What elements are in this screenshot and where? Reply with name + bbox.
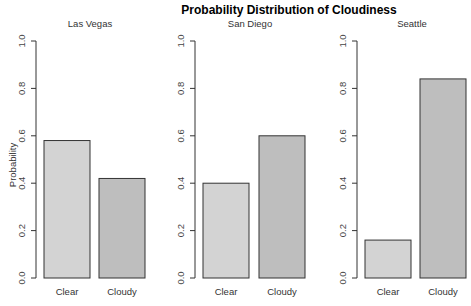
y-tick-label: 0.4 xyxy=(337,177,348,190)
x-tick-label: Clear xyxy=(215,286,238,297)
panel-title: San Diego xyxy=(228,18,272,29)
y-tick-label: 0.0 xyxy=(175,271,186,284)
y-tick-label: 0.4 xyxy=(175,177,186,190)
bar-cloudy xyxy=(259,136,305,278)
x-tick-label: Cloudy xyxy=(107,286,137,297)
y-tick-label: 0.0 xyxy=(16,271,27,284)
y-tick-label: 0.6 xyxy=(175,129,186,142)
bar-clear xyxy=(203,183,249,278)
panel-las-vegas: Las Vegas0.00.20.40.60.81.0ClearCloudy xyxy=(16,18,145,297)
panel-title: Seattle xyxy=(397,18,427,29)
chart: Probability Distribution of Cloudiness P… xyxy=(0,0,471,306)
y-tick-label: 0.8 xyxy=(337,82,348,95)
y-tick-label: 0.6 xyxy=(16,129,27,142)
y-tick-label: 0.8 xyxy=(16,82,27,95)
chart-title: Probability Distribution of Cloudiness xyxy=(181,3,397,17)
bar-cloudy xyxy=(99,178,145,278)
x-tick-label: Clear xyxy=(377,286,400,297)
y-tick-label: 0.2 xyxy=(337,224,348,237)
x-tick-label: Cloudy xyxy=(428,286,458,297)
y-tick-label: 0.4 xyxy=(16,177,27,190)
panel-title: Las Vegas xyxy=(68,18,113,29)
x-tick-label: Clear xyxy=(56,286,79,297)
y-tick-label: 0.0 xyxy=(337,271,348,284)
panel-seattle: Seattle0.00.20.40.60.81.0ClearCloudy xyxy=(337,18,466,297)
bar-cloudy xyxy=(420,79,466,278)
x-tick-label: Cloudy xyxy=(267,286,297,297)
y-tick-label: 1.0 xyxy=(175,34,186,47)
y-tick-label: 1.0 xyxy=(337,34,348,47)
bar-clear xyxy=(365,240,411,278)
y-tick-label: 0.2 xyxy=(16,224,27,237)
y-tick-label: 0.8 xyxy=(175,82,186,95)
bar-clear xyxy=(44,141,90,278)
y-tick-label: 0.2 xyxy=(175,224,186,237)
y-tick-label: 1.0 xyxy=(16,34,27,47)
panels: Las Vegas0.00.20.40.60.81.0ClearCloudySa… xyxy=(16,18,466,297)
y-tick-label: 0.6 xyxy=(337,129,348,142)
panel-san-diego: San Diego0.00.20.40.60.81.0ClearCloudy xyxy=(175,18,305,297)
